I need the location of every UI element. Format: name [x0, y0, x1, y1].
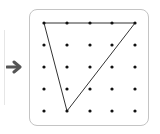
grid-dot [88, 21, 91, 24]
grid-dot [133, 109, 136, 112]
grid-dot [65, 21, 68, 24]
grid-dot [42, 109, 45, 112]
grid-dot [88, 65, 91, 68]
grid-dot [133, 43, 136, 46]
grid-dot [42, 65, 45, 68]
grid-dot [133, 87, 136, 90]
grid-dot [88, 87, 91, 90]
grid-dot [133, 21, 136, 24]
grid-dot [133, 65, 136, 68]
grid-dot [110, 43, 113, 46]
grid-dot [110, 109, 113, 112]
grid-dot [88, 109, 91, 112]
grid-dot [110, 65, 113, 68]
grid-dot [88, 43, 91, 46]
dot-grid [0, 0, 160, 134]
grid-dot [65, 109, 68, 112]
grid-dot [42, 21, 45, 24]
grid-dot [42, 87, 45, 90]
grid-dot [110, 87, 113, 90]
grid-dot [65, 87, 68, 90]
grid-dot [65, 43, 68, 46]
grid-dot [110, 21, 113, 24]
grid-dot [65, 65, 68, 68]
grid-dot [42, 43, 45, 46]
